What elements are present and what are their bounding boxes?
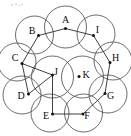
edge-c-j [22,64,53,76]
circle-e [31,94,69,132]
center-dot-k [78,75,81,78]
label-d: D [17,90,24,101]
center-dot-i [92,34,95,37]
center-dot-b [37,34,40,37]
center-dot-e [51,113,54,116]
scan-speck [15,3,16,4]
figure-container: ABCDEFGHIJK [0,0,131,136]
label-g: G [107,90,114,101]
scan-speck [21,4,22,5]
scan-speck [11,4,13,6]
label-j: J [54,66,58,77]
label-e: E [43,110,49,121]
label-i: I [96,24,99,35]
scan-specks [11,3,22,6]
center-dot-c [21,62,24,65]
edge-g-h [105,63,110,94]
label-c: C [12,52,19,63]
label-f: F [84,110,90,121]
center-dot-d [27,93,30,96]
center-dot-a [64,27,67,30]
label-b: B [29,25,36,36]
edge-a-b [39,29,66,36]
circle-packing-diagram: ABCDEFGHIJK [0,0,131,136]
node-labels-layer: ABCDEFGHIJK [12,14,119,121]
label-a: A [62,14,70,25]
label-h: H [112,52,119,63]
edge-a-i [66,29,94,36]
label-k: K [82,69,90,80]
scan-speck [18,5,19,6]
